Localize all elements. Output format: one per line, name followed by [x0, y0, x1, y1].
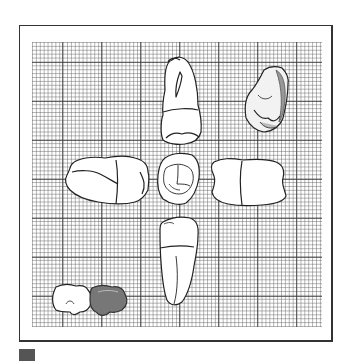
- tooth-row-sketch: [53, 285, 127, 316]
- figure-marker-square: [19, 349, 35, 361]
- tooth-view-right: [211, 159, 286, 206]
- tooth-illustration: [0, 0, 350, 361]
- tooth-view-occlusal: [158, 153, 200, 204]
- tooth-view-top: [161, 57, 201, 144]
- tooth-view-bottom: [160, 217, 198, 305]
- tooth-view-left: [66, 156, 149, 204]
- tooth-view-oblique: [245, 67, 288, 132]
